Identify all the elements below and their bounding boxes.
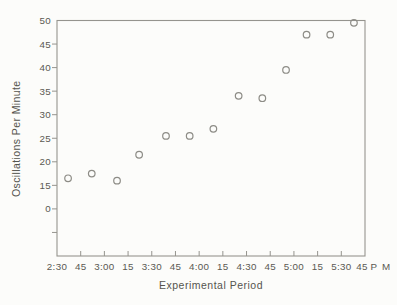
data-point [235,93,242,100]
data-point [88,170,95,177]
x-tick-label: 45 [170,261,182,272]
x-tick-label: 45 [264,261,276,272]
y-axis-title: Oscillations Per Minute [9,70,23,208]
pm-suffix-label: P M [371,261,392,272]
y-tick-label: 0 [45,203,51,214]
x-tick-label: 45 [75,261,87,272]
x-tick-label: 2:30 [47,261,68,272]
data-point [283,67,290,74]
y-tick-label: 25 [40,133,52,144]
y-tick-label: 50 [40,15,52,26]
data-point [114,177,121,184]
data-point [210,126,217,133]
x-tick-label: 5:30 [331,261,352,272]
data-point [303,31,310,38]
x-tick-label: 4:00 [189,261,210,272]
scanned-chart-page: 504540353025201502:30453:00153:30454:001… [0,0,397,305]
x-tick-label: 45 [356,261,368,272]
x-tick-label: 3:00 [94,261,115,272]
data-point [327,31,334,38]
data-point [259,95,266,102]
scatter-plot: 504540353025201502:30453:00153:30454:001… [0,0,397,305]
x-tick-label: 15 [217,261,229,272]
y-tick-label: 20 [40,156,52,167]
y-tick-label: 15 [40,180,52,191]
y-tick-label: 30 [40,109,52,120]
oscillation-scatter-figure: 504540353025201502:30453:00153:30454:001… [0,0,397,305]
x-tick-label: 4:30 [236,261,257,272]
x-tick-label: 3:30 [142,261,163,272]
y-tick-label: 40 [40,62,52,73]
x-tick-label: 15 [312,261,324,272]
x-tick-label: 15 [122,261,134,272]
x-axis-title: Experimental Period [57,279,365,291]
data-point [136,151,143,158]
data-point [163,133,170,140]
data-point [186,133,193,140]
x-tick-label: 5:00 [284,261,305,272]
plot-border [57,21,365,257]
data-point [65,175,72,182]
y-tick-label: 45 [40,39,52,50]
y-tick-label: 35 [40,86,52,97]
